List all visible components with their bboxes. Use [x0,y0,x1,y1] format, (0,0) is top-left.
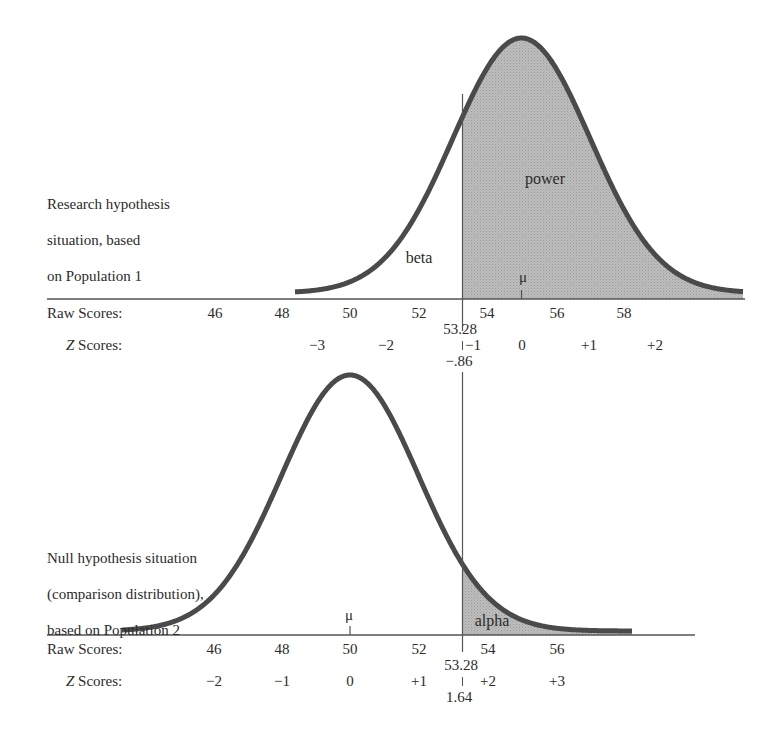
z-tick: 0 [346,672,354,690]
z-tick: 0 [518,336,526,354]
caption-line: (comparison distribution), [47,585,204,603]
raw-tick: 52 [412,640,427,658]
cutoff-raw-label: 53.28 [444,656,478,674]
raw-tick: 56 [550,640,565,658]
raw-scores-label: Raw Scores: [47,304,122,322]
caption-line: situation, based [47,231,170,249]
caption-line: Research hypothesis [47,195,170,213]
z-scores-label: Z Scores: [66,672,122,690]
raw-tick: 54 [480,304,495,322]
z-tick: +3 [549,672,565,690]
z-tick: +1 [411,672,427,690]
raw-tick: 46 [207,640,222,658]
caption-line: Null hypothesis situation [47,549,204,567]
raw-tick: 52 [412,304,427,322]
z-scores-label: Z Scores: [66,336,122,354]
alpha-label: alpha [475,612,510,630]
power-label: power [525,170,565,188]
z-tick: −2 [206,672,222,690]
z-tick: −1 [274,672,290,690]
mean-symbol: μ [519,268,527,286]
power-diagram: Research hypothesis situation, based on … [0,0,779,739]
raw-tick: 54 [481,640,496,658]
z-tick: +2 [647,336,663,354]
z-tick: +1 [581,336,597,354]
z-scores-suffix: Scores: [74,673,122,689]
raw-tick: 50 [343,640,358,658]
z-scores-suffix: Scores: [74,337,122,353]
raw-tick: 46 [208,304,223,322]
caption-line: based on Population 2 [47,621,204,639]
raw-tick: 50 [343,304,358,322]
mean-symbol: μ [345,606,353,624]
null-hypothesis-caption: Null hypothesis situation (comparison di… [47,531,204,657]
z-tick: +2 [480,672,496,690]
cutoff-z-label: 1.64 [446,688,472,706]
beta-label: beta [406,249,433,267]
z-tick: −2 [378,336,394,354]
raw-tick: 48 [275,304,290,322]
raw-scores-label: Raw Scores: [47,640,122,658]
raw-tick: 58 [617,304,632,322]
cutoff-z-label: −.86 [445,352,472,370]
raw-tick: 48 [275,640,290,658]
caption-line: on Population 1 [47,267,170,285]
raw-tick: 56 [550,304,565,322]
research-hypothesis-caption: Research hypothesis situation, based on … [47,177,170,303]
z-tick: −3 [309,336,325,354]
